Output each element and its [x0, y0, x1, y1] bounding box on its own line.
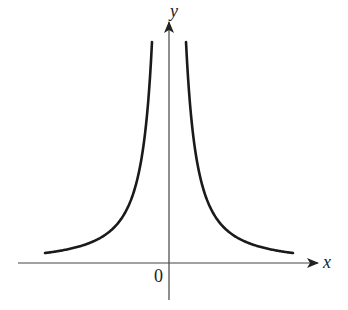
curve-left-branch [45, 42, 152, 253]
graph-figure: y x 0 [0, 0, 348, 310]
curve-right-branch [186, 42, 293, 253]
y-axis-label: y [168, 1, 178, 21]
x-axis-label: x [322, 252, 331, 272]
origin-label: 0 [154, 266, 163, 286]
